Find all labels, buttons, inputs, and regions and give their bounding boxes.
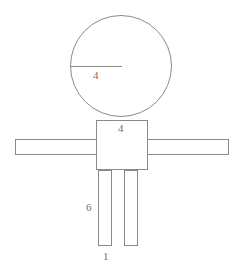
stick-figure-drawing	[0, 0, 243, 272]
head-radius-label: 4	[93, 70, 99, 81]
leg-length-label: 6	[86, 202, 92, 213]
diagram-canvas: 4 4 6 1	[0, 0, 243, 272]
right-leg	[125, 171, 138, 246]
torso-size-label: 4	[118, 123, 124, 134]
leg-width-label: 1	[103, 251, 109, 262]
left-leg	[99, 171, 112, 246]
